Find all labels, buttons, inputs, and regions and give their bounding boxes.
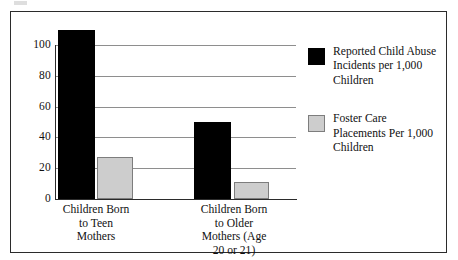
category-label-teen-mothers: Children Born to Teen Mothers [43,203,149,244]
legend-entry-child-abuse[interactable]: Reported Child Abuse Incidents per 1,000… [308,45,453,88]
y-axis-tick-labels: 100 80 60 40 20 0 [11,45,51,199]
figure-frame: 100 80 60 40 20 0 Children Born to Teen … [10,11,447,253]
bar-teen-mothers-foster-care[interactable] [97,157,133,199]
y-tick-label-80: 80 [39,70,51,82]
category-label-older-mothers: Children Born to Older Mothers (Age 20 o… [179,203,289,257]
bars-layer [55,45,297,199]
y-tick-label-100: 100 [33,39,51,51]
bar-older-mothers-foster-care[interactable] [234,182,269,199]
chart-legend: Reported Child Abuse Incidents per 1,000… [308,45,453,179]
legend-label-child-abuse: Reported Child Abuse Incidents per 1,000… [333,45,436,88]
legend-entry-foster-care[interactable]: Foster Care Placements Per 1,000 Childre… [308,112,453,155]
bar-teen-mothers-child-abuse[interactable] [58,30,95,199]
y-tick-label-40: 40 [39,131,51,143]
y-tick-label-60: 60 [39,101,51,113]
y-tick-label-20: 20 [39,162,51,174]
dark-square-swatch-icon [308,48,325,65]
x-axis-line [55,199,297,200]
light-square-swatch-icon [308,115,325,132]
scan-artifact [14,1,27,5]
bar-older-mothers-child-abuse[interactable] [194,122,231,199]
legend-label-foster-care: Foster Care Placements Per 1,000 Childre… [333,112,433,155]
